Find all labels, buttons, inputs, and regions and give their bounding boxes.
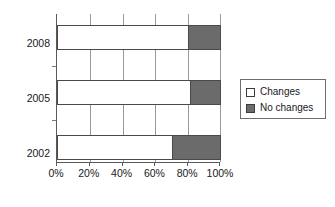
x-tick-label-100: 100%	[200, 167, 240, 179]
legend-item-no-changes: No changes	[246, 100, 320, 116]
legend-item-changes: Changes	[246, 84, 320, 100]
stacked-bar-chart-figure: 2008 2005 2002 0% 20% 40% 60% 80% 100% C…	[0, 0, 335, 207]
y-tick-label-2002: 2002	[8, 147, 50, 159]
y-tick-label-2005: 2005	[8, 92, 50, 104]
y-tick-label-2008: 2008	[8, 37, 50, 49]
legend-swatch-changes-icon	[246, 88, 255, 97]
legend-label-no-changes: No changes	[260, 103, 313, 113]
legend: Changes No changes	[240, 79, 326, 119]
legend-swatch-no-changes-icon	[246, 104, 255, 113]
legend-label-changes: Changes	[260, 87, 300, 97]
